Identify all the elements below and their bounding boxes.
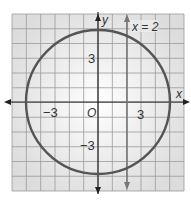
x-axis-label: x	[175, 87, 183, 101]
tick-x-neg3: −3	[43, 105, 58, 120]
tick-y-3: 3	[88, 51, 95, 66]
arrow-right-icon	[183, 99, 190, 105]
line-label: x = 2	[131, 20, 159, 34]
origin-label: O	[87, 106, 96, 120]
tick-y-neg3: −3	[80, 138, 95, 153]
tick-x-3: 3	[137, 107, 144, 122]
y-axis-label: y	[101, 13, 109, 27]
coordinate-plane: x = 2 y x O −3 3 3 −3	[0, 0, 191, 208]
arrow-left-icon	[4, 99, 11, 105]
